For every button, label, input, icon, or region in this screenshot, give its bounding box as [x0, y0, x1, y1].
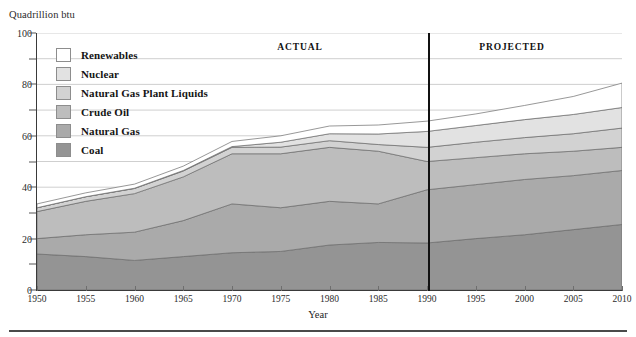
legend-item-label: Nuclear — [81, 68, 119, 80]
x-axis-tick-label: 1975 — [271, 294, 290, 304]
chart-legend: RenewablesNuclearNatural Gas Plant Liqui… — [56, 45, 208, 159]
x-axis-tick-mark — [525, 286, 526, 291]
x-axis-tick-label: 1985 — [369, 294, 388, 304]
x-axis-tick-mark — [135, 286, 136, 291]
legend-item-label: Natural Gas Plant Liquids — [81, 87, 208, 99]
x-axis-tick-label: 1950 — [28, 294, 47, 304]
legend-item: Nuclear — [56, 64, 208, 83]
period-label-actual: ACTUAL — [277, 42, 323, 52]
y-axis-minor-tick-mark — [29, 212, 36, 213]
y-axis-tick-mark — [29, 290, 36, 291]
y-axis-tick-mark — [29, 187, 36, 188]
y-axis-minor-tick-mark — [29, 264, 36, 265]
legend-item-label: Coal — [81, 144, 103, 156]
x-axis-tick-mark — [476, 286, 477, 291]
x-axis-tick-label: 1965 — [174, 294, 193, 304]
y-axis-ticks: 020406080100 — [0, 0, 32, 337]
x-axis-tick-label: 2010 — [613, 294, 632, 304]
x-axis-tick-label: 1990 — [418, 294, 437, 304]
x-axis-tick-label: 2000 — [515, 294, 534, 304]
x-axis-title: Year — [0, 309, 636, 320]
legend-item-label: Natural Gas — [81, 125, 140, 137]
x-axis-tick-label: 1980 — [320, 294, 339, 304]
actual-projected-divider — [428, 33, 430, 291]
x-axis-tick-label: 1970 — [223, 294, 242, 304]
x-axis-tick-label: 1960 — [125, 294, 144, 304]
legend-swatch-icon — [56, 124, 71, 138]
legend-swatch-icon — [56, 143, 71, 157]
legend-item: Crude Oil — [56, 102, 208, 121]
legend-item: Natural Gas — [56, 121, 208, 140]
legend-swatch-icon — [56, 105, 71, 119]
x-axis-tick-label: 1995 — [466, 294, 485, 304]
legend-item: Renewables — [56, 45, 208, 64]
x-axis-tick-label: 1955 — [76, 294, 95, 304]
x-axis-tick-mark — [86, 286, 87, 291]
legend-swatch-icon — [56, 67, 71, 81]
legend-swatch-icon — [56, 86, 71, 100]
legend-swatch-icon — [56, 48, 71, 62]
y-axis-line — [36, 33, 37, 291]
bottom-rule — [9, 330, 627, 332]
legend-item-label: Crude Oil — [81, 106, 129, 118]
x-axis-tick-mark — [622, 286, 623, 291]
y-axis-tick-mark — [29, 33, 36, 34]
x-axis-tick-label: 2005 — [564, 294, 583, 304]
y-axis-minor-tick-mark — [29, 58, 36, 59]
x-axis-tick-mark — [573, 286, 574, 291]
x-axis-tick-mark — [232, 286, 233, 291]
x-axis-tick-mark — [37, 286, 38, 291]
period-label-projected: PROJECTED — [479, 42, 545, 52]
x-axis-tick-mark — [281, 286, 282, 291]
y-axis-tick-mark — [29, 238, 36, 239]
x-axis-tick-mark — [378, 286, 379, 291]
y-axis-tick-mark — [29, 84, 36, 85]
x-axis-tick-mark — [330, 286, 331, 291]
legend-item-label: Renewables — [81, 49, 138, 61]
legend-item: Natural Gas Plant Liquids — [56, 83, 208, 102]
x-axis-tick-mark — [183, 286, 184, 291]
y-axis-tick-mark — [29, 135, 36, 136]
energy-consumption-area-chart: Quadrillion btu 020406080100 19501955196… — [0, 0, 636, 337]
y-axis-minor-tick-mark — [29, 161, 36, 162]
legend-item: Coal — [56, 140, 208, 159]
y-axis-minor-tick-mark — [29, 110, 36, 111]
